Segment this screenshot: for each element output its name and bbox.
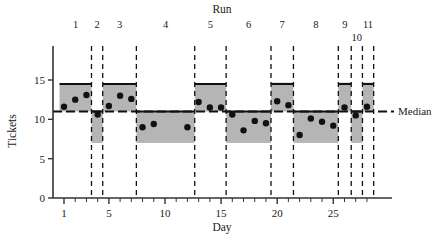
run-label-8: 8 [313,19,318,30]
data-point [218,104,224,110]
data-point [330,122,336,128]
x-tick-label: 15 [216,207,228,219]
x-tick-label: 1 [61,207,67,219]
run-label-4: 4 [163,19,169,30]
data-point [341,104,347,110]
data-point [195,99,201,105]
y-axis-title: Tickets [6,114,18,148]
x-tick-label: 20 [272,207,284,219]
y-axis-ticks: 051015 [34,74,53,204]
data-point [72,96,78,102]
data-point [151,121,157,127]
run-label-1: 1 [73,19,78,30]
run-label-5: 5 [208,19,213,30]
run-label-11: 11 [363,19,373,30]
data-point [263,120,269,126]
data-point [364,104,370,110]
run-bands [60,84,374,143]
chart-canvas: Median05101515101520251234567891011RunDa… [0,0,445,247]
data-point [117,93,123,99]
x-axis-title: Day [212,221,231,234]
data-point [296,132,302,138]
data-point [353,112,359,118]
data-point [61,104,67,110]
data-point [139,124,145,130]
data-point [319,118,325,124]
data-point [229,111,235,117]
run-label-3: 3 [117,19,122,30]
y-tick-label: 5 [40,153,46,165]
median-label: Median [398,105,432,117]
run-label-10: 10 [352,32,363,43]
runs-chart: Median05101515101520251234567891011RunDa… [0,0,445,247]
x-tick-label: 5 [106,207,112,219]
run-label-2: 2 [94,19,99,30]
run-label-9: 9 [342,19,347,30]
data-point [252,118,258,124]
data-point [106,103,112,109]
data-point [83,92,89,98]
data-point [184,124,190,130]
y-tick-label: 10 [34,113,46,125]
x-tick-label: 25 [328,207,340,219]
data-point [285,102,291,108]
x-axis-ticks: 1510152025 [61,198,367,219]
run-label-6: 6 [246,19,251,30]
run-labels: 1234567891011 [73,19,373,43]
y-tick-label: 0 [40,192,46,204]
data-point [274,98,280,104]
x-tick-label: 10 [159,207,171,219]
y-tick-label: 15 [34,74,46,86]
data-point [94,111,100,117]
run-label-7: 7 [280,19,285,30]
data-point [207,104,213,110]
data-point [240,127,246,133]
data-point [308,115,314,121]
data-point [128,96,134,102]
top-axis-title: Run [212,3,231,15]
